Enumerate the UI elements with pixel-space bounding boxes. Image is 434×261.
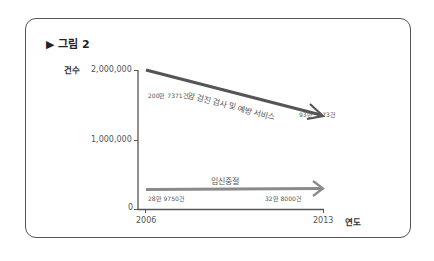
series-cancer-screening-end-value: 93만 5573건 <box>299 110 336 119</box>
chart-plot-area <box>0 0 434 261</box>
series-abortion-line <box>146 189 321 190</box>
series-abortion-name: 임신중절 <box>211 175 239 186</box>
series-abortion-start-value: 28만 9750건 <box>148 194 185 203</box>
series-abortion-end-value: 32만 8000건 <box>265 194 302 203</box>
series-cancer-screening-start-value: 200만 7371건 <box>148 91 189 100</box>
